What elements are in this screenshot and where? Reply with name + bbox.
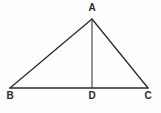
triangle-diagram-canvas (0, 0, 161, 113)
vertex-label-a: A (87, 3, 98, 13)
segment-ab (10, 19, 92, 88)
geometry-figure: A B C D (0, 0, 161, 113)
segment-ac (92, 19, 148, 88)
vertex-label-d: D (87, 91, 98, 101)
vertex-label-b: B (5, 91, 16, 101)
vertex-label-c: C (143, 91, 154, 101)
